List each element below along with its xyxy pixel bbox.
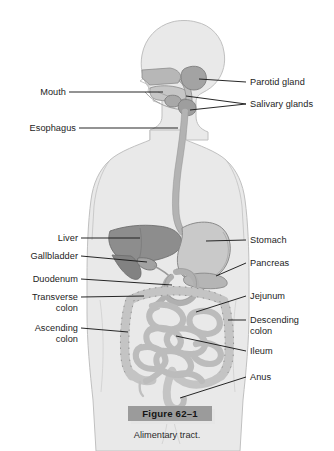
parotid-gland-shape — [181, 66, 206, 90]
label-esophagus: Esophagus — [0, 123, 76, 134]
figure-number-text: Figure 62–1 — [128, 406, 212, 421]
palate — [142, 68, 181, 85]
label-stomach: Stomach — [250, 235, 334, 246]
label-parotid-gland: Parotid gland — [250, 77, 334, 88]
label-pancreas: Pancreas — [250, 258, 334, 269]
leader-salivary-glands-2 — [190, 104, 246, 110]
label-gallbladder: Gallbladder — [0, 251, 78, 262]
label-jejunum: Jejunum — [250, 291, 334, 302]
label-transverse-colon: Transverse colon — [0, 292, 78, 313]
label-descending-colon: Descending colon — [250, 315, 334, 336]
label-duodenum: Duodenum — [0, 274, 78, 285]
label-liver: Liver — [0, 233, 78, 244]
label-anus: Anus — [250, 372, 334, 383]
figure-alimentary-tract: Mouth Esophagus Liver Gallbladder Duoden… — [0, 0, 334, 451]
anatomy-illustration — [0, 0, 334, 451]
figure-caption: Alimentary tract. — [0, 430, 334, 440]
label-mouth: Mouth — [0, 87, 66, 98]
label-ileum: Ileum — [250, 346, 334, 357]
label-ascending-colon: Ascending colon — [0, 323, 78, 344]
figure-number-box: Figure 62–1 — [128, 406, 212, 421]
label-salivary-glands: Salivary glands — [250, 99, 334, 110]
